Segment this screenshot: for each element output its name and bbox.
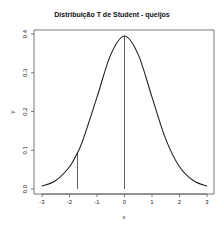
- x-axis: -3-2-10123: [39, 194, 209, 205]
- x-tick-label: -2: [67, 199, 73, 205]
- y-tick-label: 0.4: [22, 29, 28, 38]
- y-tick-label: 0.0: [22, 184, 28, 193]
- x-tick-label: 0: [123, 199, 127, 205]
- x-tick-label: 1: [150, 199, 154, 205]
- vertical-lines: [77, 36, 124, 189]
- x-axis-label: x: [123, 214, 126, 220]
- x-tick-label: -1: [94, 199, 100, 205]
- y-tick-label: 0.2: [22, 107, 28, 116]
- x-tick-label: -3: [39, 199, 45, 205]
- plot-frame: [34, 30, 214, 194]
- y-axis-label: y: [9, 111, 15, 114]
- y-tick-label: 0.3: [22, 68, 28, 77]
- x-tick-label: 2: [178, 199, 182, 205]
- y-tick-label: 0.1: [22, 145, 28, 154]
- y-axis: 0.00.10.20.30.4: [22, 29, 34, 193]
- x-tick-label: 3: [205, 199, 209, 205]
- chart-canvas: 0.00.10.20.30.4 -3-2-10123 x y: [0, 0, 224, 229]
